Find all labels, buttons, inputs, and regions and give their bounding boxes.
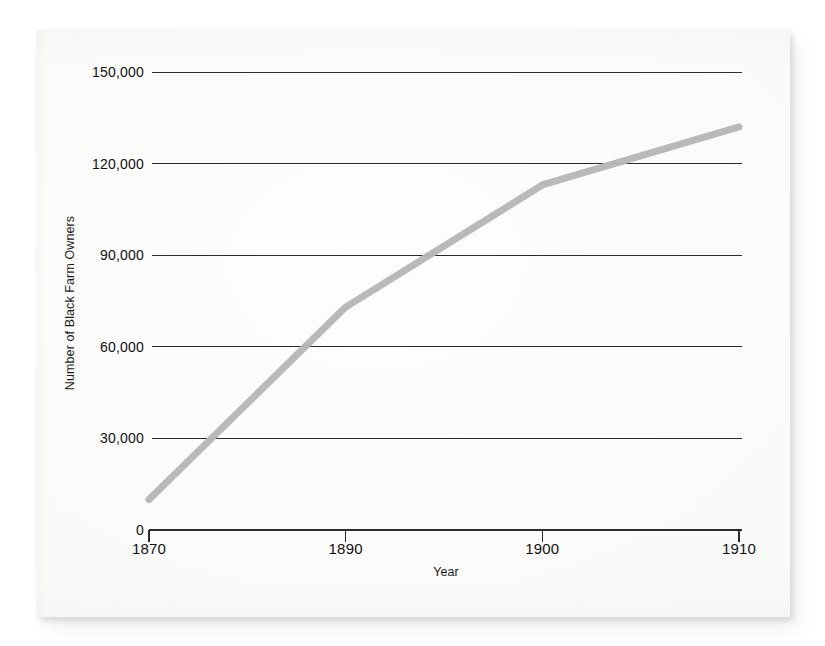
paper-grain-texture bbox=[37, 30, 790, 617]
y-tick-label-150000: 150,000 bbox=[60, 64, 144, 80]
y-axis-title: Number of Black Farm Owners bbox=[63, 216, 77, 390]
paper-tint-overlay bbox=[37, 30, 790, 617]
y-tick-label-30000: 30,000 bbox=[60, 430, 144, 446]
x-tick-label-1900: 1900 bbox=[525, 540, 559, 557]
y-tick-label-slot: 30,000 bbox=[60, 438, 144, 454]
scanned-page-panel bbox=[37, 30, 790, 617]
y-tick-label-0: 0 bbox=[60, 522, 144, 538]
screenshot-root: 030,00060,00090,000120,000150,000 187018… bbox=[0, 0, 825, 646]
y-tick-label-slot: 120,000 bbox=[60, 164, 144, 180]
x-tick-label-1890: 1890 bbox=[329, 540, 363, 557]
x-axis-title: Year bbox=[433, 565, 459, 579]
y-tick-label-slot: 150,000 bbox=[60, 72, 144, 88]
x-tick-label-1870: 1870 bbox=[132, 540, 166, 557]
y-tick-label-120000: 120,000 bbox=[60, 156, 144, 172]
x-tick-label-1910: 1910 bbox=[722, 540, 756, 557]
